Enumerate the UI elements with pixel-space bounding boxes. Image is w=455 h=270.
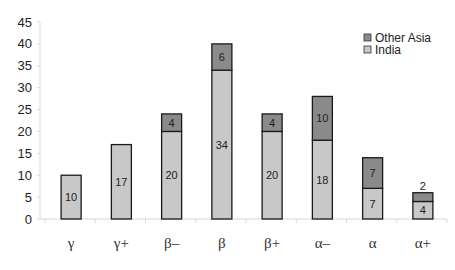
bar-group: 204	[162, 114, 182, 219]
y-tick-label: 0	[25, 212, 32, 227]
stacked-bar-chart: 051015202530354045γγ+β–ββ+α–αα+ 10172043…	[0, 0, 455, 270]
y-tick-label: 40	[18, 36, 32, 51]
x-category-label: β+	[264, 235, 280, 251]
x-category-label: β–	[164, 235, 180, 251]
bar-group: 17	[111, 145, 131, 219]
x-category-label: γ+	[113, 235, 129, 251]
bar-value-label: 6	[219, 51, 225, 63]
bar-value-label: 4	[169, 117, 175, 129]
bar-group: 204	[262, 114, 282, 219]
y-tick-label: 10	[18, 168, 32, 183]
legend: Other AsiaIndia	[364, 31, 431, 57]
bar-group: 42	[413, 180, 433, 219]
bars: 101720434620418107742	[61, 44, 433, 219]
bar-value-label: 2	[420, 180, 426, 192]
y-tick-label: 15	[18, 146, 32, 161]
y-tick-label: 35	[18, 58, 32, 73]
bar-value-label: 17	[115, 176, 127, 188]
legend-label: India	[375, 43, 401, 57]
bar-group: 346	[212, 44, 232, 219]
bar-value-label: 4	[269, 117, 275, 129]
x-category-label: α+	[415, 235, 431, 251]
y-tick-label: 5	[25, 190, 32, 205]
bar-value-label: 10	[65, 191, 77, 203]
y-tick-label: 20	[18, 124, 32, 139]
bar-segment-other-asia	[413, 193, 433, 202]
bar-value-label: 7	[370, 167, 376, 179]
bar-group: 77	[363, 158, 383, 219]
bar-value-label: 20	[166, 169, 178, 181]
x-category-label: γ	[67, 235, 75, 251]
x-category-label: α	[369, 235, 377, 251]
y-tick-label: 25	[18, 102, 32, 117]
bar-value-label: 20	[266, 169, 278, 181]
bar-group: 10	[61, 175, 81, 219]
bar-group: 1810	[312, 96, 332, 219]
y-tick-label: 30	[18, 80, 32, 95]
legend-swatch	[364, 46, 371, 53]
bar-value-label: 7	[370, 198, 376, 210]
bar-value-label: 18	[316, 174, 328, 186]
x-category-label: β	[218, 235, 226, 251]
legend-swatch	[364, 34, 371, 41]
x-category-label: α–	[315, 235, 331, 251]
bar-value-label: 34	[216, 139, 228, 151]
bar-value-label: 10	[316, 112, 328, 124]
y-tick-label: 45	[18, 15, 32, 30]
bar-value-label: 4	[420, 204, 426, 216]
